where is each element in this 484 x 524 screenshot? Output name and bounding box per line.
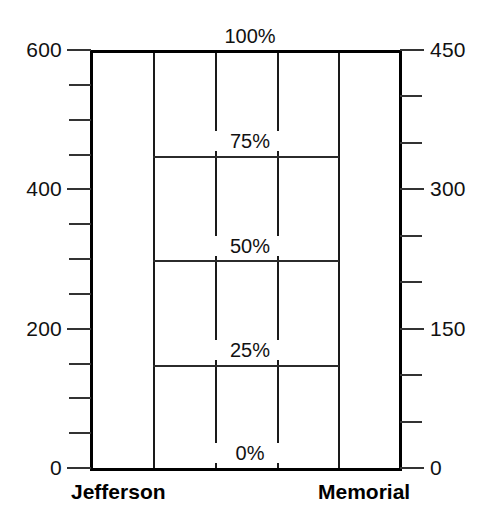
left-tick-minor-250 <box>69 293 91 295</box>
chart-canvas: 600 400 200 0 450 300 150 0 100% 75% 50%… <box>0 0 484 524</box>
right-tick-minor-200 <box>400 281 422 283</box>
left-axis-tick-label-0: 0 <box>10 457 62 478</box>
left-tick-minor-500 <box>69 119 91 121</box>
left-tick-minor-450 <box>69 154 91 156</box>
gridline-50-percent <box>153 260 339 262</box>
right-tick-major-150 <box>400 328 424 330</box>
gridline-75-percent <box>153 156 339 158</box>
percent-label-25: 25% <box>197 340 303 360</box>
left-axis-tick-label-400: 400 <box>10 178 62 199</box>
top-axis-line <box>90 50 402 53</box>
left-axis-tick-label-600: 600 <box>10 39 62 60</box>
right-tick-minor-50 <box>400 421 422 423</box>
left-tick-major-0 <box>67 467 91 469</box>
percent-label-100: 100% <box>197 26 303 46</box>
left-axis-spine <box>90 50 93 471</box>
left-tick-minor-550 <box>69 84 91 86</box>
right-tick-major-0 <box>400 467 424 469</box>
gridline-25-percent <box>153 365 339 367</box>
left-tick-minor-300 <box>69 258 91 260</box>
right-axis-tick-label-450: 450 <box>430 39 482 60</box>
right-axis-tick-label-150: 150 <box>430 318 482 339</box>
left-tick-major-400 <box>67 188 91 190</box>
left-tick-major-200 <box>67 328 91 330</box>
left-tick-minor-100 <box>69 397 91 399</box>
right-tick-major-450 <box>400 49 424 51</box>
left-tick-minor-350 <box>69 223 91 225</box>
right-tick-major-300 <box>400 188 424 190</box>
right-axis-spine <box>399 50 402 471</box>
series-label-jefferson: Jefferson <box>71 481 166 502</box>
left-tick-minor-50 <box>69 432 91 434</box>
percent-label-0: 0% <box>197 443 303 463</box>
bottom-axis-line <box>90 468 402 471</box>
right-tick-minor-250 <box>400 235 422 237</box>
series-label-memorial: Memorial <box>318 481 410 502</box>
left-tick-major-600 <box>67 49 91 51</box>
percent-label-50: 50% <box>197 236 303 256</box>
left-tick-minor-150 <box>69 363 91 365</box>
right-tick-minor-100 <box>400 374 422 376</box>
percent-label-75: 75% <box>197 131 303 151</box>
right-axis-tick-label-0: 0 <box>430 457 482 478</box>
right-tick-minor-350 <box>400 142 422 144</box>
right-axis-tick-label-300: 300 <box>430 178 482 199</box>
left-axis-tick-label-200: 200 <box>10 318 62 339</box>
right-tick-minor-400 <box>400 95 422 97</box>
